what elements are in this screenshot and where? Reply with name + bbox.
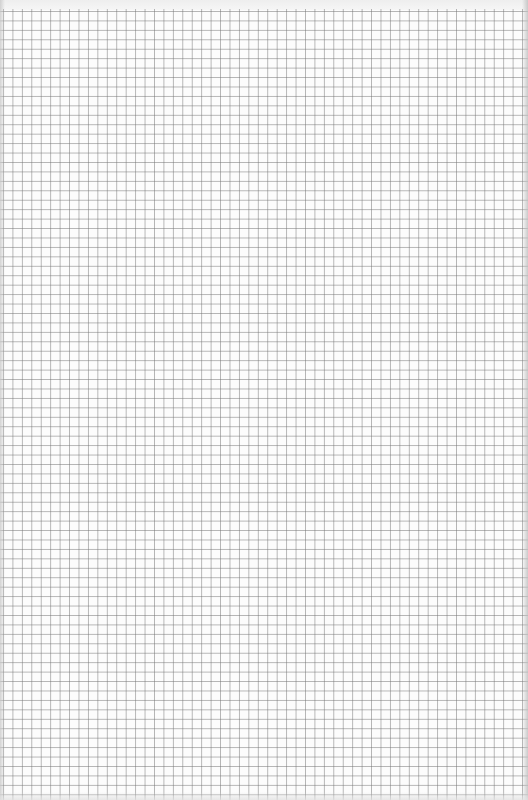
right-scan-edge: [522, 0, 528, 800]
left-scan-edge: [0, 0, 5, 800]
bottom-scan-edge: [0, 792, 528, 800]
graph-paper-sheet: [0, 0, 528, 800]
grid-lines: [0, 9, 528, 800]
